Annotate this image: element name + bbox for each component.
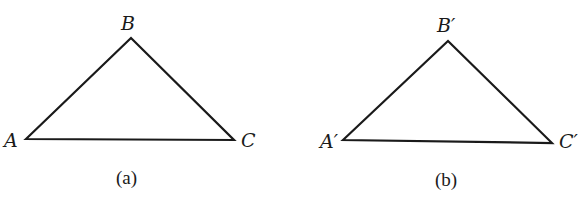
vertex-label-b-B: B′ (436, 14, 456, 36)
triangle-b-outline (343, 41, 552, 143)
vertex-label-a-A: A (2, 129, 18, 151)
triangle-b: A′ B′ C′ (b) (318, 14, 579, 191)
triangle-a-outline (26, 38, 234, 140)
caption-b: (b) (435, 169, 457, 191)
vertex-label-b-A: A′ (318, 130, 339, 152)
vertex-label-a-B: B (120, 12, 135, 34)
vertex-label-a-C: C (241, 129, 256, 151)
caption-a: (a) (116, 167, 137, 189)
vertex-label-b-C: C′ (559, 130, 579, 152)
similar-triangles-diagram: A B C (a) A′ B′ C′ (b) (0, 0, 583, 201)
triangle-a: A B C (a) (2, 12, 256, 189)
